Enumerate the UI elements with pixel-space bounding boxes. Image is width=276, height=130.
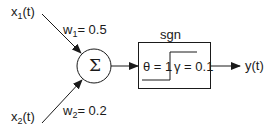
diagram-canvas: [0, 0, 276, 130]
sigma-symbol: Σ: [84, 55, 106, 75]
input-1-label: x1(t): [11, 5, 35, 19]
weight-2-label: w2= 0.2: [63, 104, 107, 118]
gamma-label: γ = 0.1: [174, 60, 213, 74]
theta-label: θ = 1: [143, 60, 172, 74]
input-2-label: x2(t): [11, 110, 35, 124]
output-label: y(t): [245, 59, 264, 73]
weight-1-label: w1= 0.5: [63, 23, 107, 37]
activation-title: sgn: [160, 28, 181, 42]
